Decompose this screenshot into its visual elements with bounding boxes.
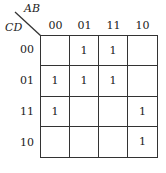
karnaugh-map: AB CD 00 01 11 10 00 01 11 10 1 1 1 1 1 … bbox=[0, 0, 166, 173]
kmap-cell: 1 bbox=[70, 36, 99, 66]
kmap-cell: 1 bbox=[70, 66, 99, 96]
kmap-cell: 1 bbox=[41, 66, 70, 96]
kmap-cell: 1 bbox=[41, 97, 70, 127]
kmap-cell bbox=[70, 127, 99, 157]
row-label: 11 bbox=[18, 106, 36, 118]
kmap-cell bbox=[70, 97, 99, 127]
kmap-cell: 1 bbox=[128, 97, 157, 127]
kmap-cell bbox=[128, 36, 157, 66]
col-label: 00 bbox=[41, 20, 70, 32]
kmap-cell bbox=[99, 97, 128, 127]
kmap-cell: 1 bbox=[99, 66, 128, 96]
row-label: 01 bbox=[18, 75, 36, 87]
col-label: 10 bbox=[128, 20, 157, 32]
kmap-grid: 1 1 1 1 1 1 1 1 bbox=[40, 35, 158, 158]
col-variable-label: AB bbox=[24, 3, 40, 15]
col-label: 11 bbox=[99, 20, 128, 32]
kmap-cell bbox=[99, 127, 128, 157]
kmap-cell bbox=[128, 66, 157, 96]
row-label: 10 bbox=[18, 137, 36, 149]
kmap-cell bbox=[41, 127, 70, 157]
kmap-cell: 1 bbox=[128, 127, 157, 157]
kmap-cell: 1 bbox=[99, 36, 128, 66]
row-label: 00 bbox=[18, 44, 36, 56]
row-variable-label: CD bbox=[5, 22, 22, 34]
col-label: 01 bbox=[70, 20, 99, 32]
kmap-cell bbox=[41, 36, 70, 66]
